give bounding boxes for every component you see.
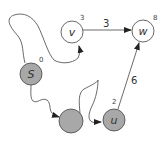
shortest-path-diagram: 3 6 v 3 w 8 S 0 u 2 (0, 0, 165, 142)
edge-path-s-to-x (31, 85, 59, 117)
node-u[interactable]: u 2 (103, 98, 125, 131)
node-u-distance: 2 (112, 98, 116, 106)
node-u-label: u (111, 114, 118, 127)
node-unnamed[interactable] (59, 109, 83, 133)
node-s[interactable]: S 0 (20, 56, 43, 85)
edge-weight-u-w: 6 (131, 75, 137, 86)
node-s-distance: 0 (39, 56, 43, 64)
node-w-distance: 8 (153, 14, 157, 22)
edge-weight-v-w: 3 (103, 18, 109, 29)
node-w[interactable]: w 8 (132, 14, 157, 42)
node-w-label: w (139, 25, 148, 38)
node-v[interactable]: v 3 (61, 14, 84, 43)
node-s-label: S (28, 68, 35, 81)
node-v-distance: 3 (80, 14, 84, 22)
node-v-label: v (69, 26, 76, 39)
edge-path-x-to-u (79, 80, 101, 122)
